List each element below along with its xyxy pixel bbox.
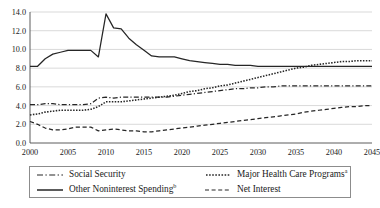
x-axis-tick-label: 2015 bbox=[136, 148, 152, 157]
legend-label-other-noninterest-spending: Other Noninterest Spendingb bbox=[69, 185, 176, 194]
series-net-interest bbox=[30, 106, 372, 132]
y-axis-tick-label: 12.0 bbox=[12, 27, 26, 36]
legend-item-major-health-care-programs: Major Health Care Programsa bbox=[198, 167, 350, 182]
legend-item-other-noninterest-spending: Other Noninterest Spendingb bbox=[30, 182, 198, 197]
y-axis-tick-label: 14.0 bbox=[12, 8, 26, 17]
x-axis-tick-label: 2030 bbox=[250, 148, 266, 157]
legend-swatch-solid-icon bbox=[37, 185, 63, 195]
figure-container: 0.02.04.06.08.010.012.014.02000200520102… bbox=[0, 0, 380, 208]
legend-item-net-interest: Net Interest bbox=[198, 182, 350, 197]
y-axis-tick-label: 0.0 bbox=[16, 139, 26, 148]
series-other-noninterest-spending bbox=[30, 14, 372, 66]
x-axis-tick-label: 2035 bbox=[288, 148, 304, 157]
legend-footnote-marker-b: b bbox=[173, 183, 176, 189]
y-axis-tick-label: 6.0 bbox=[16, 83, 26, 92]
x-axis-tick-label: 2045 bbox=[364, 148, 380, 157]
y-axis-tick-label: 8.0 bbox=[16, 64, 26, 73]
legend-footnote-marker-a: a bbox=[345, 168, 348, 174]
x-axis-tick-label: 2020 bbox=[174, 148, 190, 157]
line-chart: 0.02.04.06.08.010.012.014.02000200520102… bbox=[0, 0, 380, 160]
legend-label-text: Major Health Care Programs bbox=[237, 169, 345, 179]
x-axis-tick-label: 2000 bbox=[22, 148, 38, 157]
legend-label-social-security: Social Security bbox=[69, 170, 126, 179]
legend-swatch-dotted-icon bbox=[205, 170, 231, 180]
legend-label-text: Other Noninterest Spending bbox=[69, 184, 173, 194]
legend-grid: Social Security Major Health Care Progra… bbox=[30, 167, 350, 197]
x-axis-tick-label: 2040 bbox=[326, 148, 342, 157]
chart-legend: Social Security Major Health Care Progra… bbox=[29, 166, 351, 198]
legend-label-net-interest: Net Interest bbox=[237, 185, 281, 194]
legend-label-major-health-care-programs: Major Health Care Programsa bbox=[237, 170, 347, 179]
chart-plot-area: 0.02.04.06.08.010.012.014.02000200520102… bbox=[0, 0, 380, 160]
series-social-security bbox=[30, 86, 372, 105]
x-axis-tick-label: 2010 bbox=[98, 148, 114, 157]
x-axis-tick-label: 2005 bbox=[60, 148, 76, 157]
x-axis-tick-label: 2025 bbox=[212, 148, 228, 157]
y-axis-tick-label: 10.0 bbox=[12, 45, 26, 54]
y-axis-tick-label: 4.0 bbox=[16, 102, 26, 111]
legend-swatch-dashed-icon bbox=[205, 185, 231, 195]
series-major-health-care-programs bbox=[30, 61, 372, 115]
legend-item-social-security: Social Security bbox=[30, 167, 198, 182]
legend-swatch-dashdot-icon bbox=[37, 170, 63, 180]
y-axis-tick-label: 2.0 bbox=[16, 120, 26, 129]
